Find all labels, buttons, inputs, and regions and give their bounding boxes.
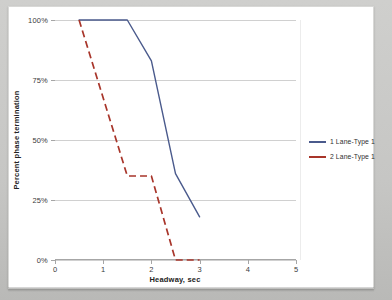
x-axis-tick: [248, 260, 249, 264]
y-axis-label: 50%: [32, 136, 48, 145]
card-shadow: [8, 287, 374, 292]
x-axis-label: 5: [294, 265, 298, 274]
gridline-y: [55, 260, 296, 261]
legend-item[interactable]: 1 Lane-Type 1: [309, 138, 375, 145]
x-axis-label: 1: [101, 265, 105, 274]
screenshot-root: Percent phase termination Headway, sec 0…: [0, 0, 392, 300]
y-axis-label: 0%: [37, 256, 48, 265]
legend-label: 2 Lane-Type 1: [330, 153, 375, 160]
series-line-2-lane-type-1: [79, 20, 200, 260]
x-axis-label: 3: [198, 265, 202, 274]
y-axis-label: 75%: [32, 76, 48, 85]
legend-swatch-icon: [309, 156, 326, 158]
x-axis-label: 2: [149, 265, 153, 274]
x-axis-tick: [200, 260, 201, 264]
x-axis-title: Headway, sec: [149, 275, 200, 284]
x-axis-label: 0: [53, 265, 57, 274]
chart-card: Percent phase termination Headway, sec 0…: [8, 6, 374, 289]
x-axis-label: 4: [246, 265, 250, 274]
series-line-1-lane-type-1: [79, 20, 200, 217]
legend-item[interactable]: 2 Lane-Type 1: [309, 153, 375, 160]
x-axis-tick: [103, 260, 104, 264]
line-chart: Percent phase termination Headway, sec 0…: [9, 7, 373, 288]
x-axis-tick: [151, 260, 152, 264]
legend-swatch-icon: [309, 141, 326, 143]
chart-legend: 1 Lane-Type 12 Lane-Type 1: [309, 138, 375, 160]
y-axis-label: 25%: [32, 196, 48, 205]
x-axis-tick: [55, 260, 56, 264]
x-axis-tick: [296, 260, 297, 264]
y-axis-title: Percent phase termination: [12, 90, 21, 189]
plot-area: 0%25%50%75%100% 012345: [55, 20, 296, 260]
legend-label: 1 Lane-Type 1: [330, 138, 375, 145]
series-lines: [55, 20, 296, 260]
plot-right-divider: [300, 20, 301, 260]
y-axis-label: 100%: [28, 16, 48, 25]
